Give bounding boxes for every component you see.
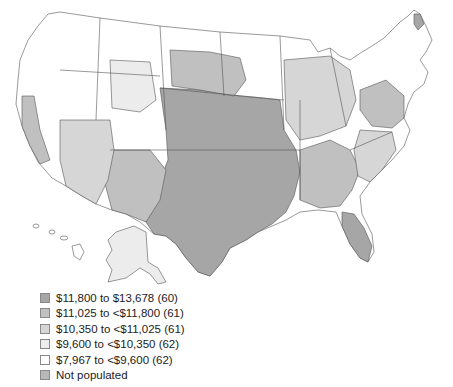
region-tier1-florida — [342, 212, 372, 262]
legend-label: $7,967 to <$9,600 (62) — [56, 354, 173, 366]
legend-label: $11,800 to $13,678 (60) — [56, 292, 178, 304]
legend-swatch — [40, 293, 50, 303]
legend-swatch — [40, 324, 50, 334]
legend-swatch — [40, 339, 50, 349]
legend-label: $10,350 to <$11,025 (61) — [56, 323, 185, 335]
legend-label: Not populated — [56, 369, 128, 381]
legend-item-tier4: $9,600 to <$10,350 (62) — [40, 337, 240, 353]
legend-swatch — [40, 370, 50, 380]
region-tier1-south-central — [146, 88, 300, 276]
region-tier3-southeast-coast — [354, 130, 396, 182]
legend-item-not-populated: Not populated — [40, 368, 240, 384]
legend-swatch — [40, 355, 50, 365]
legend-item-tier3: $10,350 to <$11,025 (61) — [40, 321, 240, 337]
hawaii — [33, 224, 84, 260]
legend-item-tier2: $11,025 to <$11,800 (61) — [40, 306, 240, 322]
legend-item-tier1: $11,800 to $13,678 (60) — [40, 290, 240, 306]
legend: $11,800 to $13,678 (60) $11,025 to <$11,… — [40, 290, 240, 383]
legend-label: $9,600 to <$10,350 (62) — [56, 338, 179, 350]
legend-swatch — [40, 308, 50, 318]
legend-item-tier5: $7,967 to <$9,600 (62) — [40, 352, 240, 368]
region-tier4-northwest — [110, 60, 156, 112]
choropleth-map — [0, 0, 453, 290]
legend-label: $11,025 to <$11,800 (61) — [56, 307, 184, 319]
